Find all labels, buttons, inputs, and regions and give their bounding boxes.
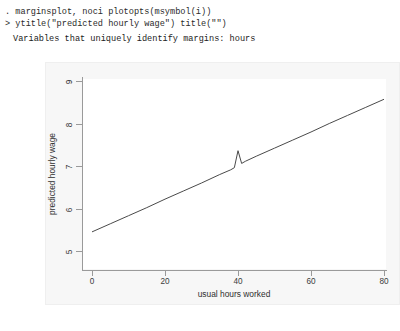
console-command-line-2: > ytitle("predicted hourly wage") title(… bbox=[5, 18, 227, 30]
stata-results-console: . marginsplot, noci plotopts(msymbol(i))… bbox=[0, 0, 400, 60]
series-line-predicted-wage bbox=[92, 99, 384, 232]
series-svg bbox=[46, 63, 400, 306]
console-command-line-1: . marginsplot, noci plotopts(msymbol(i)) bbox=[5, 6, 211, 18]
console-output-line: Variables that uniquely identify margins… bbox=[13, 33, 255, 45]
stata-graph-region: 9 8 7 6 5 0 20 40 60 80 predicted hourly… bbox=[45, 62, 400, 305]
